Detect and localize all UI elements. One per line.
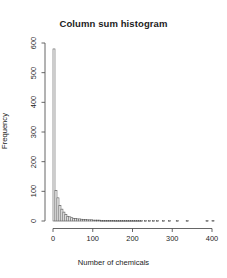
histogram-bar: [83, 220, 85, 221]
histogram-bar: [85, 220, 87, 221]
histogram-bar: [115, 221, 117, 222]
histogram-bar: [65, 214, 67, 221]
x-tick-label: 400: [198, 234, 226, 243]
histogram-bar: [59, 206, 61, 221]
histogram-bar: [89, 220, 91, 221]
histogram-bar: [144, 221, 146, 222]
y-tick-label: 300: [29, 126, 38, 138]
histogram-bar: [127, 221, 129, 222]
histogram-bar: [121, 221, 123, 222]
histogram-bar: [79, 219, 81, 221]
histogram-bar: [162, 221, 164, 222]
histogram-bar: [168, 221, 170, 222]
histogram-bar: [63, 212, 65, 221]
histogram-bar: [99, 220, 101, 221]
histogram-bar: [73, 218, 75, 221]
histogram-bar: [107, 220, 109, 221]
y-tick-label: 100: [29, 185, 38, 197]
histogram-plot: Column sum histogram Frequency Number of…: [0, 0, 227, 278]
bar-series: [53, 49, 214, 222]
histogram-bar: [61, 209, 63, 221]
histogram-bar: [123, 221, 125, 222]
y-tick-label: 0: [29, 219, 38, 223]
histogram-bar: [81, 219, 83, 221]
histogram-bar: [156, 221, 158, 222]
histogram-bar: [75, 219, 77, 221]
axes: [42, 43, 213, 232]
histogram-bar: [55, 190, 57, 221]
histogram-bar: [125, 221, 127, 222]
histogram-bar: [67, 216, 69, 221]
histogram-bar: [133, 221, 135, 222]
histogram-bar: [117, 221, 119, 222]
histogram-bar: [148, 221, 150, 222]
y-tick-label: 500: [29, 66, 38, 78]
histogram-bar: [95, 220, 97, 221]
histogram-bar: [113, 220, 115, 221]
histogram-bar: [176, 221, 178, 222]
histogram-bar: [212, 220, 214, 221]
histogram-bar: [53, 49, 55, 221]
histogram-bar: [206, 221, 208, 222]
histogram-bar: [93, 220, 95, 221]
histogram-bar: [119, 221, 121, 222]
histogram-bar: [77, 219, 79, 221]
histogram-bar: [91, 220, 93, 221]
histogram-bar: [136, 221, 138, 222]
histogram-bar: [103, 220, 105, 221]
y-tick-label: 400: [29, 96, 38, 108]
histogram-bar: [140, 221, 142, 222]
y-tick-label: 600: [29, 37, 38, 49]
histogram-bar: [152, 221, 154, 222]
histogram-bar: [87, 220, 89, 221]
histogram-bar: [111, 220, 113, 221]
histogram-bar: [186, 221, 188, 222]
y-tick-label: 200: [29, 155, 38, 167]
histogram-bar: [57, 198, 59, 221]
histogram-bar: [97, 220, 99, 221]
histogram-bar: [138, 221, 140, 222]
histogram-bar: [129, 221, 131, 222]
histogram-bar: [131, 221, 133, 222]
x-tick-label: 100: [79, 234, 107, 243]
histogram-bar: [109, 220, 111, 221]
histogram-bar: [134, 221, 136, 222]
histogram-bar: [71, 218, 73, 221]
x-tick-label: 300: [158, 234, 186, 243]
histogram-bar: [105, 220, 107, 221]
histogram-bar: [101, 220, 103, 221]
x-tick-label: 0: [39, 234, 67, 243]
x-tick-label: 200: [119, 234, 147, 243]
histogram-bar: [69, 217, 71, 221]
